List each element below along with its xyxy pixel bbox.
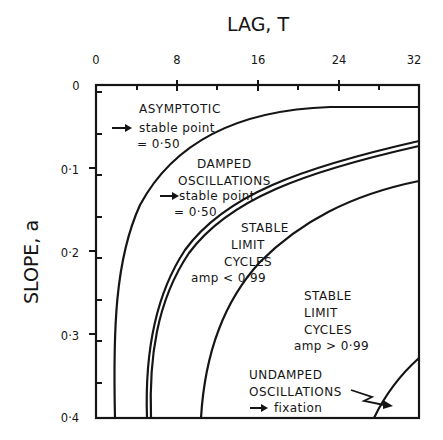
arrow-right-icon (112, 124, 132, 132)
y-tick-label: 0·2 (61, 246, 79, 260)
y-tick-labels: 0 0·1 0·2 0·3 0·4 (61, 79, 80, 425)
x-tick-label: 16 (251, 53, 266, 67)
region-title: STABLE (304, 289, 352, 303)
x-tick-label: 0 (92, 53, 99, 67)
region-stable-limit-cycles-low: STABLE LIMIT CYCLES amp < 0·99 (191, 221, 289, 285)
region-damped-oscillations: DAMPED OSCILLATIONS stable point = 0·50 (160, 157, 271, 219)
region-undamped-oscillations: UNDAMPED OSCILLATIONS fixation (249, 368, 393, 415)
arrow-right-icon (160, 192, 179, 200)
region-title: OSCILLATIONS (178, 174, 271, 188)
region-title: CYCLES (304, 323, 352, 337)
region-title: STABLE (241, 221, 289, 235)
region-title: OSCILLATIONS (249, 385, 342, 399)
region-text: fixation (274, 401, 322, 415)
region-title: DAMPED (197, 157, 252, 171)
x-tick-label: 8 (173, 53, 180, 67)
x-tick-label: 24 (332, 53, 347, 67)
region-title: LIMIT (304, 306, 338, 320)
region-title: ASYMPTOTIC (139, 102, 221, 116)
region-asymptotic: ASYMPTOTIC stable point = 0·50 (112, 102, 221, 151)
region-text: = 0·50 (174, 205, 217, 219)
y-axis-title: SLOPE, a (20, 220, 42, 304)
region-title: LIMIT (231, 238, 265, 252)
region-title: CYCLES (224, 255, 272, 269)
region-text: stable point (179, 189, 255, 203)
region-title: UNDAMPED (249, 368, 322, 382)
region-text: stable point (139, 121, 215, 135)
region-text: = 0·50 (137, 137, 180, 151)
y-tick-label: 0 (72, 79, 79, 93)
y-tick-label: 0·3 (61, 329, 79, 343)
x-tick-label: 32 (407, 53, 422, 67)
region-text: amp > 0·99 (294, 339, 369, 353)
y-tick-label: 0·1 (61, 163, 79, 177)
x-axis-title: LAG, T (227, 13, 289, 35)
phase-diagram-chart: LAG, T SLOPE, a 0 8 16 24 32 0 0·1 0·2 0… (0, 0, 443, 440)
region-text: amp < 0·99 (191, 271, 266, 285)
y-tick-label: 0·4 (61, 411, 79, 425)
x-tick-labels: 0 8 16 24 32 (92, 53, 421, 67)
zigzag-pointer-arrow-icon (351, 390, 393, 409)
region-stable-limit-cycles-high: STABLE LIMIT CYCLES amp > 0·99 (294, 289, 369, 353)
arrow-right-icon (250, 404, 268, 412)
boundary-curve-undamped (374, 358, 419, 418)
